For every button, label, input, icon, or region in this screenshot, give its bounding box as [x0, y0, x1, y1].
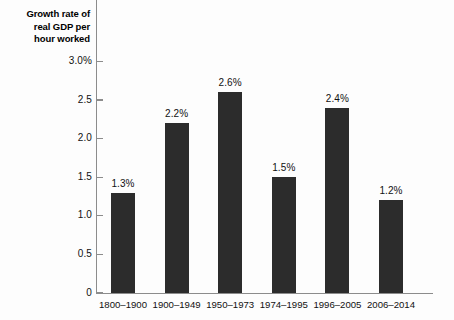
bar-value-label: 1.2% — [361, 185, 421, 196]
x-axis-tick-label: 1950–1973 — [200, 299, 260, 310]
bar — [218, 92, 242, 293]
x-axis-tick-label: 1800–1900 — [93, 299, 153, 310]
bar — [165, 123, 189, 293]
x-axis-tick-label: 1900–1949 — [147, 299, 207, 310]
x-axis-tick-label: 1974–1995 — [254, 299, 314, 310]
bar — [379, 200, 403, 293]
x-axis-tick-label: 2006–2014 — [361, 299, 421, 310]
bar-value-label: 2.4% — [307, 93, 367, 104]
bar-chart: Growth rate of real GDP per hour worked … — [0, 0, 454, 320]
plot-area: 1.3%1800–19002.2%1900–19492.6%1950–19731… — [0, 0, 454, 320]
bar-value-label: 1.5% — [254, 162, 314, 173]
bar — [111, 193, 135, 293]
bar-value-label: 1.3% — [93, 178, 153, 189]
bar-value-label: 2.6% — [200, 77, 260, 88]
bar-value-label: 2.2% — [147, 108, 207, 119]
x-axis-tick-label: 1996–2005 — [307, 299, 367, 310]
bar — [325, 108, 349, 293]
bar — [272, 177, 296, 293]
